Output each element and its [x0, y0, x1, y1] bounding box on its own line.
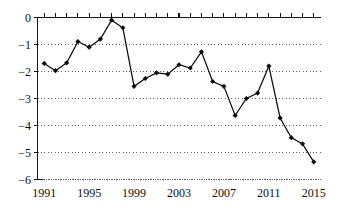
y-tick-labels-group: 0−1−2−3−4−5−6 [18, 11, 31, 187]
x-tick-label: 1991 [32, 186, 56, 200]
data-point-marker [255, 91, 260, 96]
data-point-marker [266, 64, 271, 69]
data-point-marker [210, 79, 215, 84]
line-chart: 0−1−2−3−4−5−6 19911995199920032007201120… [0, 0, 338, 211]
series-line [44, 20, 314, 162]
x-tick-label: 1999 [122, 186, 146, 200]
data-point-marker [75, 39, 80, 44]
x-tick-label: 2011 [257, 186, 281, 200]
y-tick-label: −2 [18, 65, 31, 79]
y-tick-label: −6 [18, 173, 31, 187]
data-point-marker [289, 135, 294, 140]
x-tick-label: 2015 [302, 186, 326, 200]
y-tick-label: −1 [18, 38, 31, 52]
data-point-marker [277, 115, 282, 120]
data-point-marker [221, 84, 226, 89]
x-tick-label: 2007 [212, 186, 236, 200]
y-axis-group [34, 18, 38, 180]
top-axis-group [38, 13, 321, 18]
chart-figure: 0−1−2−3−4−5−6 19911995199920032007201120… [0, 0, 338, 211]
y-tick-label: −4 [18, 119, 31, 133]
data-markers-group [42, 18, 317, 165]
y-tick-label: 0 [25, 11, 31, 25]
x-tick-label: 2003 [167, 186, 191, 200]
data-series-group [44, 20, 314, 162]
x-tick-label: 1995 [77, 186, 101, 200]
y-tick-label: −5 [18, 146, 31, 160]
x-tick-labels-group: 1991199519992003200720112015 [32, 186, 326, 200]
y-tick-label: −3 [18, 92, 31, 106]
data-point-marker [154, 70, 159, 75]
